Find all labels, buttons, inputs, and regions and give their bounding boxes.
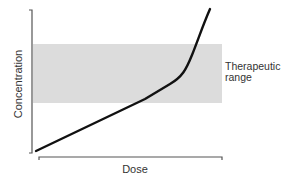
x-axis-line	[39, 157, 222, 160]
chart-canvas	[0, 0, 289, 183]
therapeutic-range-label-line2: range	[225, 72, 280, 83]
x-axis-label: Dose	[110, 163, 160, 175]
therapeutic-range-label: Therapeutic range	[225, 61, 280, 83]
y-axis-label: Concentration	[12, 39, 24, 129]
y-axis-line	[29, 10, 32, 153]
